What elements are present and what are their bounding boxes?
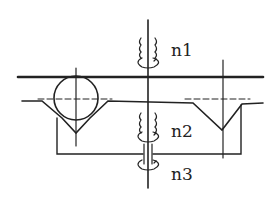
frame-right xyxy=(153,105,241,154)
frame xyxy=(57,118,143,154)
diagram-canvas: n1 n2 n3 xyxy=(0,0,275,199)
label-n2: n2 xyxy=(171,121,193,141)
label-n1: n1 xyxy=(171,40,193,60)
lower-plate-line xyxy=(22,101,263,133)
transmission-diagram: n1 n2 n3 xyxy=(0,0,275,199)
label-n3: n3 xyxy=(171,164,193,184)
